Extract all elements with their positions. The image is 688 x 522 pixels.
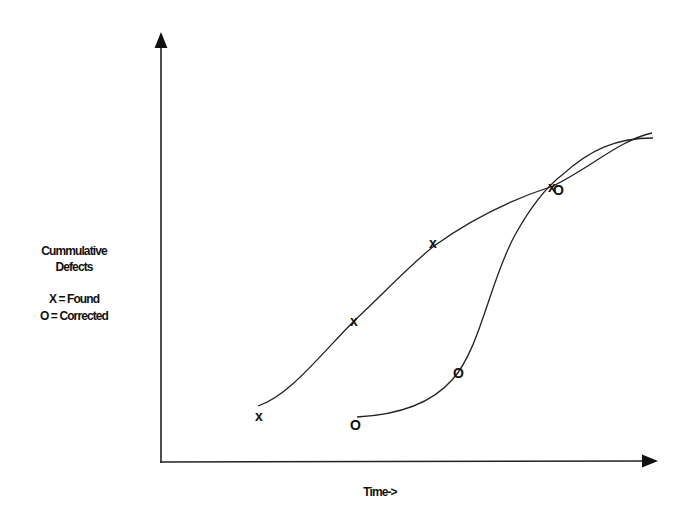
legend-corrected: O = Corrected bbox=[18, 309, 130, 323]
corrected-marker: O bbox=[553, 183, 564, 197]
y-axis-label: Cummulative Defects bbox=[18, 244, 130, 274]
found-marker: x bbox=[429, 236, 437, 250]
x-axis bbox=[160, 461, 650, 462]
found-marker: x bbox=[350, 314, 358, 328]
legend: X = Found O = Corrected bbox=[18, 292, 130, 323]
y-axis-label-line2: Defects bbox=[18, 260, 130, 274]
found-marker: x bbox=[255, 409, 263, 423]
corrected-marker: O bbox=[350, 418, 361, 432]
y-axis-label-line1: Cummulative bbox=[18, 244, 130, 258]
corrected-curve bbox=[357, 138, 653, 417]
x-axis-label: Time-> bbox=[340, 485, 420, 499]
corrected-marker: O bbox=[453, 366, 464, 380]
legend-found: X = Found bbox=[18, 292, 130, 306]
